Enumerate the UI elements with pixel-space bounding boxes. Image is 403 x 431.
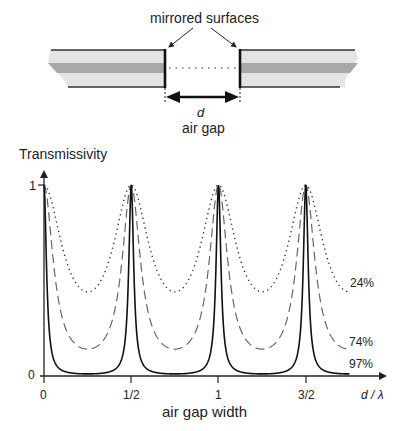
- left-mirror-plate: [48, 49, 165, 88]
- gap-width-arrow: [166, 91, 239, 103]
- y-tick-0: 0: [28, 368, 35, 382]
- curve-97pct: [44, 185, 349, 374]
- y-axis-title: Transmissivity: [19, 146, 107, 162]
- x-tick-0: 0: [40, 388, 47, 402]
- x-tick-1: 1: [215, 388, 222, 402]
- series-label-97: 97%: [349, 357, 373, 371]
- right-mirror-plate: [240, 49, 358, 88]
- series-label-74: 74%: [349, 335, 373, 349]
- series-label-24: 24%: [350, 276, 374, 290]
- x-tick-half: 1/2: [123, 388, 140, 402]
- figure: [0, 0, 403, 431]
- x-tick-3half: 3/2: [298, 388, 315, 402]
- x-axis-title: air gap width: [162, 403, 247, 420]
- mirror-pointer-right: [211, 28, 236, 47]
- air-gap-label: air gap: [182, 120, 225, 136]
- x-unit-label: d / λ: [361, 388, 384, 402]
- y-tick-1: 1: [29, 178, 36, 193]
- gap-d-label: d: [197, 105, 204, 120]
- mirrored-surfaces-label: mirrored surfaces: [150, 10, 259, 26]
- mirror-pointer-left: [169, 28, 193, 47]
